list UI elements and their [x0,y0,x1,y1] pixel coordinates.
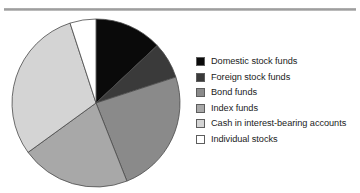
pie-chart-figure: Domestic stock fundsForeign stock fundsB… [0,0,360,193]
legend-item[interactable]: Foreign stock funds [196,70,358,85]
legend-item-label: Index funds [211,103,258,114]
legend-item-label: Domestic stock funds [211,56,297,67]
swatch-foreign-stock-funds [196,73,205,82]
pie-slice-group [12,19,180,187]
legend-item-label: Bond funds [211,87,257,98]
legend-item[interactable]: Cash in interest-bearing accounts [196,116,358,131]
pie-svg [8,16,184,192]
legend-item[interactable]: Domestic stock funds [196,54,358,69]
legend-item-label: Foreign stock funds [211,72,290,83]
swatch-individual-stocks [196,135,205,144]
chart-legend: Domestic stock fundsForeign stock fundsB… [196,54,358,147]
legend-item[interactable]: Individual stocks [196,132,358,147]
legend-item-label: Individual stocks [211,134,278,145]
legend-item[interactable]: Index funds [196,101,358,116]
legend-item[interactable]: Bond funds [196,85,358,100]
swatch-cash-interest-bearing [196,119,205,128]
legend-item-label: Cash in interest-bearing accounts [211,118,346,129]
top-divider-rule [4,8,356,11]
swatch-bond-funds [196,88,205,97]
pie-chart-graphic [8,16,184,192]
swatch-domestic-stock-funds [196,57,205,66]
swatch-index-funds [196,104,205,113]
